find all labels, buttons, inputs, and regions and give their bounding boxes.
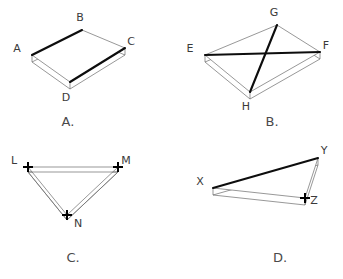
- figure-b-vertex-label-f: F: [323, 39, 329, 52]
- figure-c-vertex-label-l: L: [11, 154, 18, 167]
- figure-d-vertex-label-y: Y: [320, 144, 328, 157]
- figure-b-vertex-label-h: H: [242, 100, 250, 113]
- figure-b-vertex-label-e: E: [187, 42, 194, 55]
- figure-a-vertex-label-c: C: [127, 35, 135, 48]
- figure-d-vertex-label-z: Z: [310, 194, 318, 207]
- figure-b-vertex-label-g: G: [270, 6, 279, 19]
- figure-c-vertex-label-m: M: [121, 154, 131, 167]
- figure-a-vertex-label-a: A: [13, 42, 21, 55]
- geometry-figure-sheet: ABCDA.EGFHB.LMNC.XYZD.: [0, 0, 343, 279]
- figure-c-caption: C.: [66, 250, 79, 265]
- figure-a-caption: A.: [62, 114, 75, 129]
- figure-d-caption: D.: [273, 250, 287, 265]
- figure-c-vertex-label-n: N: [74, 217, 82, 230]
- figure-b-caption: B.: [265, 114, 278, 129]
- figure-d-vertex-label-x: X: [196, 175, 204, 188]
- figure-a-vertex-label-d: D: [62, 91, 70, 104]
- figure-a-vertex-label-b: B: [76, 11, 84, 24]
